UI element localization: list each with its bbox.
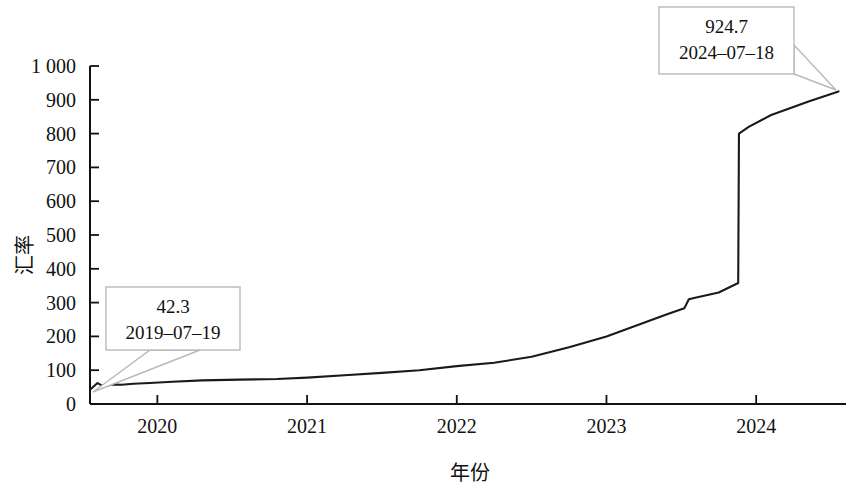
y-tick-label: 1 000 xyxy=(31,55,76,77)
callout-tail xyxy=(93,350,200,392)
callout-date: 2019–07–19 xyxy=(126,322,221,343)
y-tick-label: 600 xyxy=(46,190,76,212)
y-tick-label: 900 xyxy=(46,89,76,111)
y-tick-label: 200 xyxy=(46,325,76,347)
callout-date: 2024–07–18 xyxy=(679,42,774,63)
callout-tail xyxy=(794,45,836,90)
chart-svg: 01002003004005006007008009001 000 202020… xyxy=(0,0,853,497)
y-tick-label: 800 xyxy=(46,123,76,145)
y-axis-title: 汇率 xyxy=(13,235,37,275)
x-tick-label: 2021 xyxy=(287,415,327,437)
annotation-start-point: 42.32019–07–19 xyxy=(93,287,240,392)
callout-value: 42.3 xyxy=(156,296,189,317)
exchange-rate-chart: 01002003004005006007008009001 000 202020… xyxy=(0,0,853,497)
y-axis-tick-labels: 01002003004005006007008009001 000 xyxy=(31,55,76,415)
x-axis-title: 年份 xyxy=(450,461,490,485)
y-tick-label: 0 xyxy=(66,393,76,415)
callout-value: 924.7 xyxy=(705,16,748,37)
x-tick-label: 2020 xyxy=(137,415,177,437)
y-tick-label: 300 xyxy=(46,292,76,314)
y-tick-label: 100 xyxy=(46,359,76,381)
y-tick-label: 700 xyxy=(46,156,76,178)
y-tick-label: 500 xyxy=(46,224,76,246)
x-tick-label: 2024 xyxy=(736,415,776,437)
annotation-end-point: 924.72024–07–18 xyxy=(659,7,836,90)
x-tick-label: 2023 xyxy=(586,415,626,437)
annotations-group: 42.32019–07–19924.72024–07–18 xyxy=(93,7,836,392)
x-tick-label: 2022 xyxy=(437,415,477,437)
y-tick-label: 400 xyxy=(46,258,76,280)
x-axis-tick-labels: 20202021202220232024 xyxy=(137,415,776,437)
